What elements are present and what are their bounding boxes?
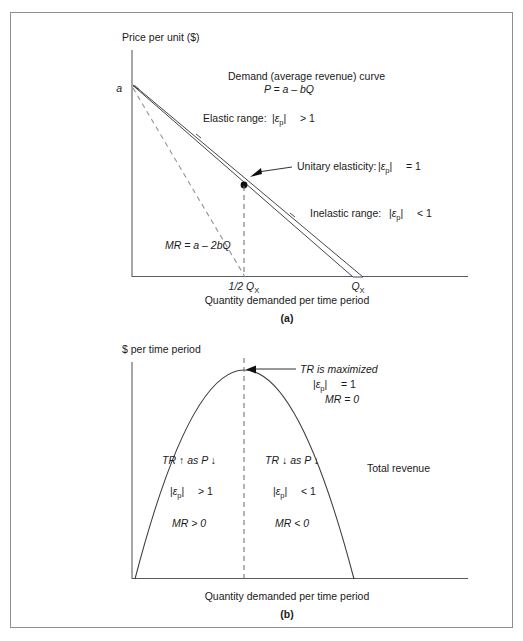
inelastic-epsilon-group: |εp| (389, 207, 403, 222)
elastic-range-annotation: Elastic range: |εp| > 1 (203, 112, 315, 127)
tr-max-note: TR is maximized (300, 363, 379, 375)
panel-b: $ per time period TR is maximized |εp| =… (122, 343, 468, 620)
right-region-note-2: |εp| < 1 (273, 485, 316, 500)
right-region-note-3: MR < 0 (275, 517, 309, 529)
unitary-elasticity-arrowhead (250, 168, 262, 177)
right-region-note-1: TR ↓ as P ↓ (265, 454, 319, 466)
elastic-bar-close: | (284, 112, 287, 124)
xtick-max-main: Q (351, 280, 359, 292)
mr-equation-label: MR = a – 2bQ (165, 239, 231, 251)
tr-max-epsilon-group: |εp| (313, 378, 327, 393)
panel-a-x-axis-title: Quantity demanded per time period (205, 294, 370, 306)
inelastic-range-label: Inelastic range: (310, 207, 381, 219)
panel-a-label: (a) (281, 312, 294, 324)
unitary-elasticity-label: Unitary elasticity: (297, 160, 376, 172)
left-bar-close: | (182, 485, 185, 497)
elastic-range-epsilon: |εp| (272, 112, 286, 127)
inelastic-range-value: < 1 (417, 207, 432, 219)
elastic-range-label: Elastic range: (203, 112, 267, 124)
demand-curve-title: Demand (average revenue) curve (228, 70, 385, 82)
panel-b-x-axis-title: Quantity demanded per time period (205, 590, 370, 602)
peak-bar-close: | (325, 378, 328, 390)
unitary-bar-close: | (390, 160, 393, 172)
left-region-note-1: TR ↑ as P ↓ (162, 454, 216, 466)
panel-a-intercept-label: a (116, 82, 122, 94)
panel-b-label: (b) (280, 608, 293, 620)
demand-curve-equation: P = a – bQ (264, 83, 314, 95)
tr-max-elasticity-note: |εp| = 1 (313, 378, 356, 393)
figure-canvas: Price per unit ($) a Demand (average rev… (0, 0, 523, 641)
panel-a-xtick-mid: 1/2 QX (229, 280, 260, 295)
inelastic-bar-close: | (401, 207, 404, 219)
tr-max-arrowhead (246, 366, 256, 374)
right-bar-close: | (285, 485, 288, 497)
panel-a-xtick-max: QX (351, 280, 364, 295)
unitary-elasticity-leader (258, 167, 292, 172)
elastic-range-value: > 1 (300, 112, 315, 124)
unitary-elasticity-annotation: Unitary elasticity: |εp| = 1 (297, 160, 421, 175)
panel-b-y-axis-title: $ per time period (122, 343, 201, 355)
unitary-epsilon-group: |εp| (378, 160, 392, 175)
panel-a-y-axis-title: Price per unit ($) (122, 31, 200, 43)
right-epsilon-value: < 1 (301, 485, 316, 497)
left-epsilon-group: |εp| (170, 485, 184, 500)
right-epsilon-group: |εp| (273, 485, 287, 500)
panel-a: Price per unit ($) a Demand (average rev… (116, 31, 468, 324)
figure-root: Price per unit ($) a Demand (average rev… (0, 0, 523, 641)
tr-max-epsilon-value: = 1 (341, 378, 356, 390)
total-revenue-label: Total revenue (367, 462, 430, 474)
inelastic-range-annotation: Inelastic range: |εp| < 1 (310, 207, 432, 222)
tr-max-mr-note: MR = 0 (325, 393, 359, 405)
left-region-note-2: |εp| > 1 (170, 485, 213, 500)
left-epsilon-value: > 1 (198, 485, 213, 497)
left-region-note-3: MR > 0 (172, 517, 206, 529)
unitary-elasticity-value: = 1 (406, 160, 421, 172)
xtick-mid-main: 1/2 Q (229, 280, 255, 292)
